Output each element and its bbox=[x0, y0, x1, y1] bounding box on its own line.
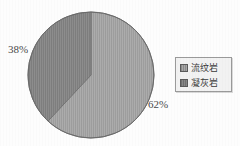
pie-chart bbox=[27, 11, 155, 139]
legend-swatch-icon-rhyolite bbox=[180, 64, 188, 72]
legend-item-rhyolite: 流纹岩 bbox=[180, 61, 228, 75]
pie-chart-svg bbox=[27, 11, 155, 139]
legend-item-tuff: 凝灰岩 bbox=[180, 76, 228, 90]
legend-label-rhyolite: 流纹岩 bbox=[191, 63, 218, 73]
slice-label-38-percent: 38% bbox=[8, 43, 28, 55]
chart-legend: 流纹岩 凝灰岩 bbox=[175, 57, 232, 92]
legend-label-tuff: 凝灰岩 bbox=[191, 78, 218, 88]
legend-swatch-icon-tuff bbox=[180, 79, 188, 87]
slice-label-62-percent: 62% bbox=[148, 98, 168, 110]
pie-chart-figure: 38% 62% 流纹岩 凝灰岩 bbox=[0, 0, 240, 146]
